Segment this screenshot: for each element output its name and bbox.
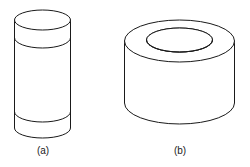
figure-part-a bbox=[15, 10, 71, 138]
caption-part-b: (b) bbox=[150, 146, 210, 156]
figure-canvas bbox=[0, 0, 250, 167]
cylinder-a-top-face bbox=[15, 10, 71, 30]
caption-part-a: (a) bbox=[14, 146, 72, 156]
cylinder-a-body bbox=[15, 20, 71, 138]
figure-part-b bbox=[125, 20, 235, 124]
